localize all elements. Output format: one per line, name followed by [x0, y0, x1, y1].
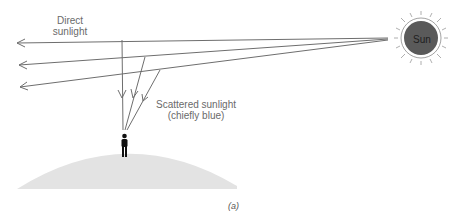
arrowhead-icon — [118, 90, 126, 98]
scattered-label-line-1: Scattered sunlight — [148, 99, 244, 110]
direct-sunlight-rays — [17, 38, 388, 90]
observer-person-icon — [122, 134, 128, 157]
earth-ground — [17, 154, 237, 189]
direct-label-line-2: sunlight — [50, 26, 90, 37]
sun-label: Sun — [413, 34, 431, 45]
figure-caption: (a) — [228, 201, 239, 211]
direct-label-line-1: Direct — [50, 15, 90, 26]
scattered-sunlight-label: Scattered sunlight (chiefly blue) — [148, 99, 244, 121]
scattered-label-line-2: (chiefly blue) — [148, 110, 244, 121]
direct-sunlight-label: Direct sunlight — [50, 15, 90, 37]
